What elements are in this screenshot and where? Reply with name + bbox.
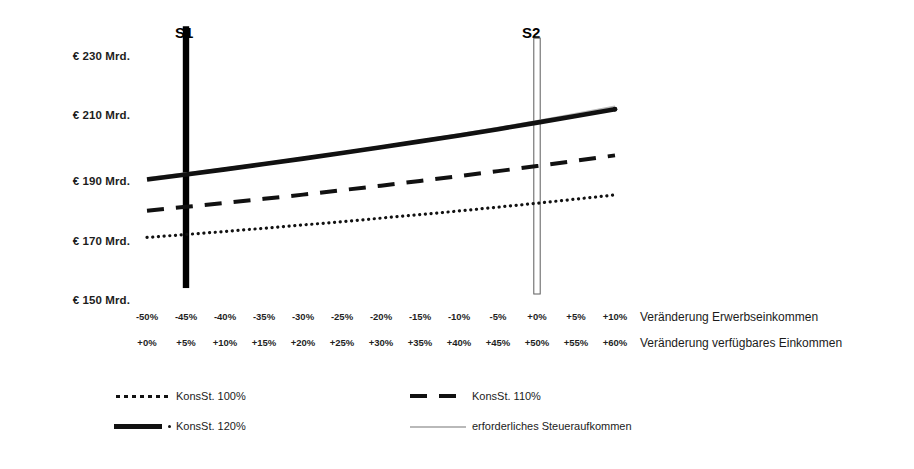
x-tick-label: +50% — [517, 337, 557, 348]
y-tick-label: € 190 Mrd. — [10, 175, 130, 187]
x-tick-label: +0% — [517, 311, 557, 322]
x-tick-label: -30% — [283, 311, 323, 322]
x-tick-label: -25% — [322, 311, 362, 322]
x-tick-label: +55% — [556, 337, 596, 348]
x-tick-label: +10% — [595, 311, 635, 322]
series-line-solid — [147, 109, 615, 179]
legend-item-konsst-120: KonsSt. 120% — [112, 416, 246, 436]
series-end-marker — [613, 107, 618, 112]
x-tick-label: -45% — [166, 311, 206, 322]
legend-label: KonsSt. 100% — [176, 390, 246, 402]
x-tick-label: -40% — [205, 311, 245, 322]
x-tick-label: +35% — [400, 337, 440, 348]
x-tick-label: +10% — [205, 337, 245, 348]
plot-area — [128, 38, 628, 306]
legend-label: erforderliches Steueraufkommen — [472, 420, 632, 432]
x-tick-label: -50% — [127, 311, 167, 322]
legend-key-dotted-icon — [112, 390, 174, 402]
series-line-thin-gray — [147, 106, 615, 178]
x-tick-label: +15% — [244, 337, 284, 348]
x-tick-label: -15% — [400, 311, 440, 322]
x-axis-row1-title: Veränderung Erwerbseinkommen — [640, 310, 818, 324]
x-tick-label: +60% — [595, 337, 635, 348]
y-tick-label: € 210 Mrd. — [10, 109, 130, 121]
legend-key-solid-icon — [112, 420, 174, 432]
x-tick-label: +30% — [361, 337, 401, 348]
legend-item-erforderliches-steueraufkommen: erforderliches Steueraufkommen — [408, 416, 632, 436]
series-line-dotted — [147, 195, 615, 238]
x-tick-label: +5% — [166, 337, 206, 348]
x-tick-label: -5% — [478, 311, 518, 322]
y-tick-label: € 230 Mrd. — [10, 50, 130, 62]
legend-item-konsst-100: KonsSt. 100% — [112, 386, 246, 406]
x-tick-label: +45% — [478, 337, 518, 348]
x-tick-label: -20% — [361, 311, 401, 322]
x-tick-label: +25% — [322, 337, 362, 348]
x-tick-label: +5% — [556, 311, 596, 322]
x-tick-label: +20% — [283, 337, 323, 348]
chart-container: € 230 Mrd. € 210 Mrd. € 190 Mrd. € 170 M… — [0, 0, 914, 469]
legend-label: KonsSt. 120% — [176, 420, 246, 432]
y-axis-labels: € 230 Mrd. € 210 Mrd. € 190 Mrd. € 170 M… — [0, 0, 130, 330]
x-tick-label: +0% — [127, 337, 167, 348]
chart-legend: KonsSt. 100% KonsSt. 110% KonsSt. 120% e… — [112, 386, 812, 448]
x-tick-label: -10% — [439, 311, 479, 322]
legend-label: KonsSt. 110% — [472, 390, 541, 402]
legend-item-konsst-110: KonsSt. 110% — [408, 386, 541, 406]
plot-svg — [128, 38, 628, 306]
x-tick-label: +40% — [439, 337, 479, 348]
legend-key-thin-gray-icon — [408, 420, 470, 432]
y-tick-label: € 150 Mrd. — [10, 294, 130, 306]
y-tick-label: € 170 Mrd. — [10, 235, 130, 247]
scenario-marker-bar — [183, 26, 189, 288]
x-axis-row2-title: Veränderung verfügbares Einkommen — [640, 336, 842, 350]
legend-key-dashed-icon — [408, 390, 470, 402]
x-tick-label: -35% — [244, 311, 284, 322]
